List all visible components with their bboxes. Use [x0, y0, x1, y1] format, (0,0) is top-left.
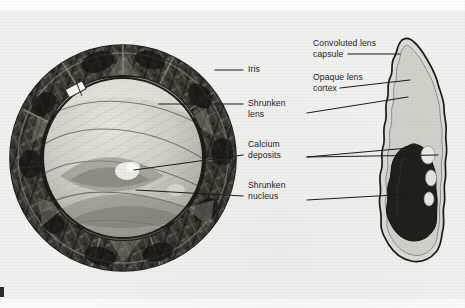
label-iris: Iris [248, 64, 260, 75]
label-shrunken-nucleus-line-1: nucleus [248, 191, 286, 202]
leader-lines [0, 0, 465, 308]
leader-cs-nucleus [307, 194, 412, 200]
label-calcium-deposits-line-1: deposits [248, 150, 281, 161]
label-convoluted-lens-capsule-line-1: capsule [313, 49, 376, 60]
label-iris-line-0: Iris [248, 64, 260, 75]
label-shrunken-lens-line-1: lens [248, 109, 286, 120]
label-shrunken-nucleus-line-0: Shrunken [248, 180, 286, 191]
label-convoluted-lens-capsule-line-0: Convoluted lens [313, 38, 376, 49]
label-convoluted-lens-capsule: Convoluted lens capsule [313, 38, 376, 60]
label-calcium-deposits-line-0: Calcium [248, 139, 281, 150]
figure-canvas: Iris Shrunken lens Calcium deposits Shru… [0, 0, 465, 308]
label-opaque-lens-cortex: Opaque lens cortex [313, 72, 363, 94]
label-shrunken-lens-line-0: Shrunken [248, 98, 286, 109]
label-shrunken-nucleus: Shrunken nucleus [248, 180, 286, 202]
label-opaque-lens-cortex-line-0: Opaque lens [313, 72, 363, 83]
label-shrunken-lens: Shrunken lens [248, 98, 286, 120]
page-edge-tick [0, 287, 4, 297]
leader-cs-shrunken-lens [307, 97, 408, 113]
label-calcium-deposits: Calcium deposits [248, 139, 281, 161]
leader-shrunken-nucleus [136, 190, 243, 196]
label-opaque-lens-cortex-line-1: cortex [313, 83, 363, 94]
leader-calcium-deposits [134, 155, 243, 170]
